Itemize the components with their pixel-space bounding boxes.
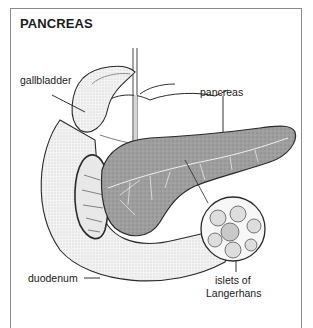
pancreas-leader-a bbox=[140, 84, 175, 94]
label-gallbladder: gallbladder bbox=[20, 74, 71, 86]
label-islets-line2: Langerhans bbox=[206, 287, 261, 299]
label-duodenum: duodenum bbox=[28, 272, 78, 284]
pancreas-shape bbox=[102, 126, 296, 236]
gallbladder-shape bbox=[72, 66, 135, 132]
label-pancreas: pancreas bbox=[200, 86, 243, 98]
label-islets-line1: islets of bbox=[215, 274, 251, 286]
